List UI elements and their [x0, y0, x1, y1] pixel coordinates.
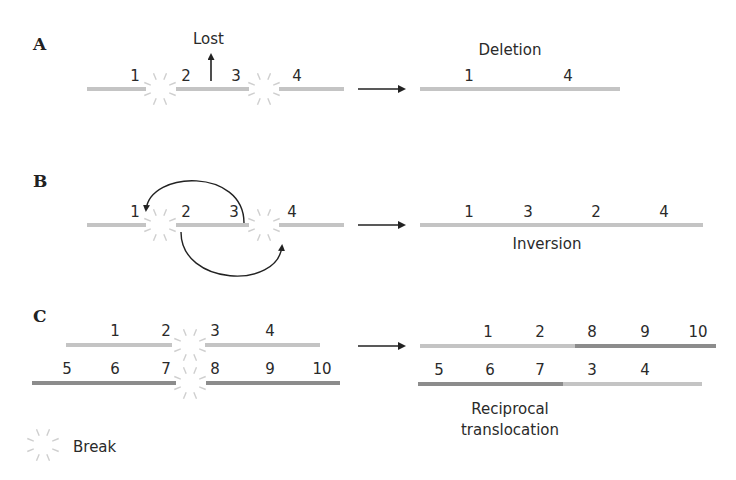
break-legend-icon	[27, 429, 58, 460]
gene-number: 2	[181, 67, 191, 85]
lost-label: Lost	[193, 30, 224, 48]
gene-number: 1	[130, 67, 140, 85]
gene-number: 4	[292, 67, 302, 85]
gene-number: 2	[591, 203, 601, 221]
gene-number: 4	[265, 322, 275, 340]
gene-number: 2	[535, 323, 545, 341]
break-icon	[248, 73, 279, 104]
break-icon	[174, 329, 205, 360]
translocation-title-line1: Reciprocal	[471, 400, 549, 418]
gene-number: 4	[563, 67, 573, 85]
translocation-title-line2: translocation	[461, 421, 559, 439]
break-icon	[144, 73, 175, 104]
panel-label-c: C	[33, 306, 47, 326]
break-icon	[174, 367, 205, 398]
gene-number: 4	[287, 203, 297, 221]
gene-number: 8	[210, 360, 220, 378]
gene-number: 5	[62, 360, 72, 378]
gene-number: 1	[464, 203, 474, 221]
gene-number: 2	[161, 322, 171, 340]
gene-number: 1	[483, 323, 493, 341]
gene-number: 3	[587, 361, 597, 379]
gene-number: 8	[587, 323, 597, 341]
gene-number: 4	[640, 361, 650, 379]
gene-number: 3	[231, 67, 241, 85]
break-icon	[144, 209, 175, 240]
gene-number: 9	[640, 323, 650, 341]
gene-number: 6	[485, 361, 495, 379]
gene-number: 1	[110, 322, 120, 340]
gene-number: 9	[265, 360, 275, 378]
deletion-title: Deletion	[479, 41, 542, 59]
inversion-title: Inversion	[513, 235, 582, 253]
chromosome-rearrangement-diagram: A B C Lost Deletion Inversion Reciprocal…	[0, 0, 736, 480]
gene-number: 4	[659, 203, 669, 221]
inversion-arc-bottom-icon	[181, 232, 282, 276]
gene-number: 1	[464, 67, 474, 85]
break-icon	[248, 209, 279, 240]
panel-label-b: B	[33, 171, 47, 191]
panel-label-a: A	[32, 34, 47, 54]
gene-number: 3	[229, 203, 239, 221]
gene-number: 7	[535, 361, 545, 379]
break-icon	[27, 429, 58, 460]
gene-number: 2	[181, 203, 191, 221]
gene-number: 3	[523, 203, 533, 221]
gene-number: 7	[161, 360, 171, 378]
gene-number: 5	[434, 361, 444, 379]
gene-number: 10	[688, 323, 707, 341]
gene-number: 3	[210, 322, 220, 340]
gene-number: 10	[312, 360, 331, 378]
break-legend-label: Break	[73, 438, 117, 456]
gene-number: 1	[130, 203, 140, 221]
gene-number: 6	[110, 360, 120, 378]
